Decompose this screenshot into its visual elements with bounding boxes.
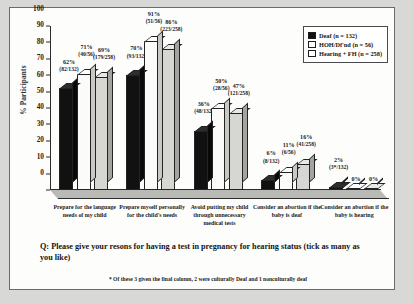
y-tickmark-80 xyxy=(46,58,50,59)
bar-top-face xyxy=(364,183,386,189)
y-tickmark-20 xyxy=(46,157,50,158)
bar-fraction-value: (223/258) xyxy=(149,26,193,33)
legend-swatch-deaf xyxy=(308,32,316,40)
legend-label-deaf: Deaf (n = 132) xyxy=(319,32,357,39)
bar-data-label: 2%(3*/132) xyxy=(317,157,361,171)
bar-1-0 xyxy=(126,75,140,190)
y-tick-0: 0 xyxy=(20,168,44,177)
bar-side-face xyxy=(207,121,213,183)
figure-caption: Q: Please give your resons for having a … xyxy=(40,242,370,264)
chart-legend: Deaf (n = 132) HOH/Df'nd (n = 56) Hearin… xyxy=(303,26,388,63)
bar-side-face xyxy=(242,103,248,183)
legend-item-deaf: Deaf (n = 132) xyxy=(308,32,382,40)
bar-side-face xyxy=(157,30,163,183)
bar-side-face xyxy=(107,66,113,183)
y-tickmark-60 xyxy=(46,91,50,92)
y-tick-40: 40 xyxy=(20,102,44,111)
y-tick-90: 90 xyxy=(20,20,44,29)
y-tickmark-10 xyxy=(46,173,50,174)
y-tickmark-0 xyxy=(46,190,50,191)
bar-side-face xyxy=(139,65,145,183)
x-axis-category-0: Prepare for the language needs of my chi… xyxy=(48,204,121,220)
bar-0-1 xyxy=(77,74,91,190)
y-tickmark-30 xyxy=(46,140,50,141)
y-tick-10: 10 xyxy=(20,151,44,160)
bar-fraction-value: (121/258) xyxy=(217,90,261,97)
x-axis-category-2: Avoid putting my child through unnecessa… xyxy=(183,204,256,227)
bar-percent-value: 47% xyxy=(217,83,261,90)
bar-2-2 xyxy=(229,113,243,190)
bar-fraction-value: (8/132) xyxy=(249,158,293,165)
bar-fraction-value: (6/56) xyxy=(267,149,311,156)
bar-1-2 xyxy=(161,49,175,190)
bar-side-face xyxy=(72,78,78,183)
bar-side-face xyxy=(309,153,315,183)
bar-percent-value: 91% xyxy=(132,11,176,18)
y-tick-50: 50 xyxy=(20,86,44,95)
bar-data-label: 86%(223/258) xyxy=(149,19,193,33)
bar-3-0 xyxy=(261,180,275,190)
legend-swatch-hoh xyxy=(308,41,316,49)
y-tick-30: 30 xyxy=(20,118,44,127)
y-tickmark-70 xyxy=(46,75,50,76)
y-tick-70: 70 xyxy=(20,53,44,62)
x-axis-category-3: Consider an abortion if the baby is deaf xyxy=(250,204,323,220)
bar-side-face xyxy=(224,98,230,183)
bar-2-1 xyxy=(211,108,225,190)
y-tick-20: 20 xyxy=(20,135,44,144)
y-tickmark-100 xyxy=(46,26,50,27)
legend-swatch-hearing xyxy=(308,50,316,58)
y-tickmark-90 xyxy=(46,42,50,43)
bar-0-0 xyxy=(59,88,73,190)
bar-4-1 xyxy=(346,188,360,190)
bar-percent-value: 2% xyxy=(317,157,361,164)
y-tickmark-40 xyxy=(46,124,50,125)
bar-group: 6%(8/132)11%(6/56)16%(41/258) xyxy=(261,26,307,190)
chart-floor-front-edge xyxy=(58,198,389,199)
bar-group: 36%(48/132)50%(28/56)47%(121/258) xyxy=(194,26,240,190)
y-tick-80: 80 xyxy=(20,36,44,45)
y-axis-tick-labels: 1009080706050403020100 xyxy=(20,8,44,208)
bar-group: 70%(93/132)91%(51/56)86%(223/258) xyxy=(126,26,172,190)
legend-item-hearing: Hearing + FH (n = 258) xyxy=(308,50,382,58)
bar-2-0 xyxy=(194,131,208,190)
x-axis-category-4: Consider an abortion if the baby is hear… xyxy=(318,204,391,220)
bar-1-1 xyxy=(144,41,158,190)
bar-side-face xyxy=(90,63,96,183)
bar-4-2 xyxy=(364,188,378,190)
legend-item-hoh: HOH/Df'nd (n = 56) xyxy=(308,41,382,49)
bar-percent-value: 86% xyxy=(149,19,193,26)
bar-0-2 xyxy=(94,77,108,190)
y-tick-60: 60 xyxy=(20,69,44,78)
bar-fraction-value: (3*/132) xyxy=(317,164,361,171)
bar-percent-value: 16% xyxy=(284,134,328,141)
bar-data-label: 16%(41/258) xyxy=(284,134,328,148)
bar-data-label: 47%(121/258) xyxy=(217,83,261,97)
bar-fraction-value: (41/258) xyxy=(284,141,328,148)
figure-panel: % Participants 1009080706050403020100 62… xyxy=(9,7,395,290)
y-tickmark-50 xyxy=(46,108,50,109)
x-axis-category-1: Prepare myself personally for the child'… xyxy=(115,204,188,220)
bar-group: 62%(82/132)71%(40/56)69%(179/258) xyxy=(59,26,105,190)
legend-label-hoh: HOH/Df'nd (n = 56) xyxy=(319,41,373,48)
y-tick-100: 100 xyxy=(20,4,44,13)
chart-plot-area: % Participants 1009080706050403020100 62… xyxy=(10,8,396,208)
bar-side-face xyxy=(174,39,180,183)
figure-footnote: * Of these 3 given the final column, 2 w… xyxy=(38,276,378,282)
legend-label-hearing: Hearing + FH (n = 258) xyxy=(319,50,382,57)
bar-4-0 xyxy=(329,187,343,190)
